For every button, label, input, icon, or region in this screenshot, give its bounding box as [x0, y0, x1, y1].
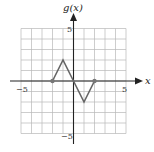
- x-tick-pos5: 5: [122, 85, 127, 94]
- y-axis-label: g(x): [63, 2, 83, 13]
- y-axis-arrow-icon: [70, 13, 77, 21]
- x-tick-neg5: −5: [16, 85, 28, 94]
- y-tick-pos5: 5: [67, 25, 72, 34]
- x-axis-arrow-icon: [135, 78, 143, 85]
- y-tick-neg5: −5: [61, 132, 73, 141]
- graph-of-g: g(x) x −5 5 5 −5: [0, 0, 154, 152]
- x-axis-label: x: [145, 75, 151, 86]
- endpoint-dot: [50, 79, 54, 83]
- endpoint-dot: [92, 79, 96, 83]
